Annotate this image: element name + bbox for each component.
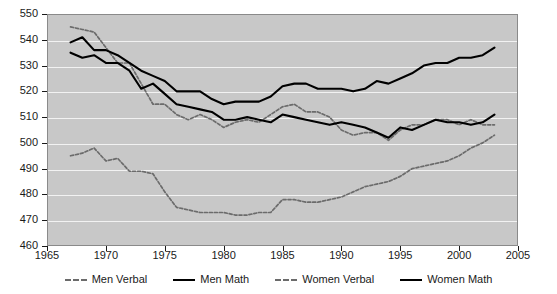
- legend-swatch-icon: [65, 275, 87, 284]
- legend-item[interactable]: Women Math: [400, 273, 492, 285]
- chart-legend: Men VerbalMen MathWomen VerbalWomen Math: [0, 270, 557, 288]
- legend-label: Women Verbal: [302, 273, 374, 285]
- series-line: [71, 135, 495, 215]
- legend-swatch-icon: [173, 275, 195, 284]
- legend-label: Men Math: [200, 273, 249, 285]
- chart-figure: 4604704804905005105205305405501965197019…: [0, 0, 557, 294]
- legend-swatch-icon: [400, 275, 422, 284]
- series-layer: [0, 0, 557, 294]
- legend-swatch-icon: [275, 275, 297, 284]
- legend-item[interactable]: Women Verbal: [275, 273, 374, 285]
- legend-item[interactable]: Men Math: [173, 273, 249, 285]
- legend-label: Men Verbal: [92, 273, 148, 285]
- series-line: [71, 27, 495, 140]
- legend-label: Women Math: [427, 273, 492, 285]
- legend-item[interactable]: Men Verbal: [65, 273, 148, 285]
- series-line: [71, 37, 495, 104]
